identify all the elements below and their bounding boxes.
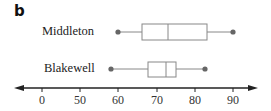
box-middleton xyxy=(115,24,235,40)
tick-60: 60 xyxy=(112,93,124,107)
box-blakewell xyxy=(108,62,207,77)
tick-0: 0 xyxy=(39,93,45,107)
tick-80: 80 xyxy=(189,93,201,107)
x-axis: 0 50 60 70 80 90 xyxy=(14,85,258,107)
tick-50: 50 xyxy=(74,93,86,107)
boxplot-chart: 0 50 60 70 80 90 xyxy=(0,0,271,111)
tick-90: 90 xyxy=(227,93,239,107)
tick-70: 70 xyxy=(151,93,163,107)
